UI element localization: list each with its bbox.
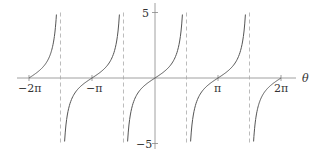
y-tick-label-neg5: −5 bbox=[136, 139, 152, 150]
tangent-plot bbox=[0, 0, 323, 158]
x-tick-label-neg-2pi: −2π bbox=[18, 83, 41, 94]
x-tick-label-2pi: 2π bbox=[274, 83, 288, 94]
x-axis-label-theta: θ bbox=[302, 73, 309, 84]
x-tick-label-neg-pi: −π bbox=[86, 83, 102, 94]
x-tick-label-pi: π bbox=[214, 83, 221, 94]
y-tick-label-5: 5 bbox=[142, 8, 149, 19]
